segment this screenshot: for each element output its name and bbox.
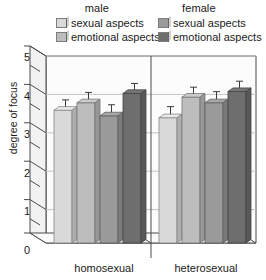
bar-heterosexual-male sexual aspects [159,118,177,243]
bar-chart: male sexual aspects emotional aspects fe… [0,0,266,280]
bar-side-homosexual-male sexual aspects [72,107,77,243]
bar-side-homosexual-female emotional aspects [141,90,146,243]
bar-side-heterosexual-female sexual aspects [223,99,228,243]
plot-area [0,0,266,280]
x-axis-label-heterosexual: heterosexual [156,262,256,274]
bar-homosexual-female sexual aspects [100,116,118,243]
bar-side-homosexual-female sexual aspects [118,112,123,243]
bar-heterosexual-female sexual aspects [205,103,223,243]
bar-side-heterosexual-male sexual aspects [177,114,182,243]
bar-heterosexual-male emotional aspects [182,97,200,243]
bar-side-homosexual-male emotional aspects [95,99,100,243]
bar-homosexual-male sexual aspects [54,110,72,243]
bar-homosexual-female emotional aspects [123,93,141,243]
left-wall [30,46,46,243]
bar-side-heterosexual-male emotional aspects [200,94,205,243]
bar-side-heterosexual-female emotional aspects [246,88,251,243]
bar-heterosexual-female emotional aspects [228,92,246,243]
bar-homosexual-male emotional aspects [77,103,95,243]
x-axis-label-homosexual: homosexual [56,262,152,274]
